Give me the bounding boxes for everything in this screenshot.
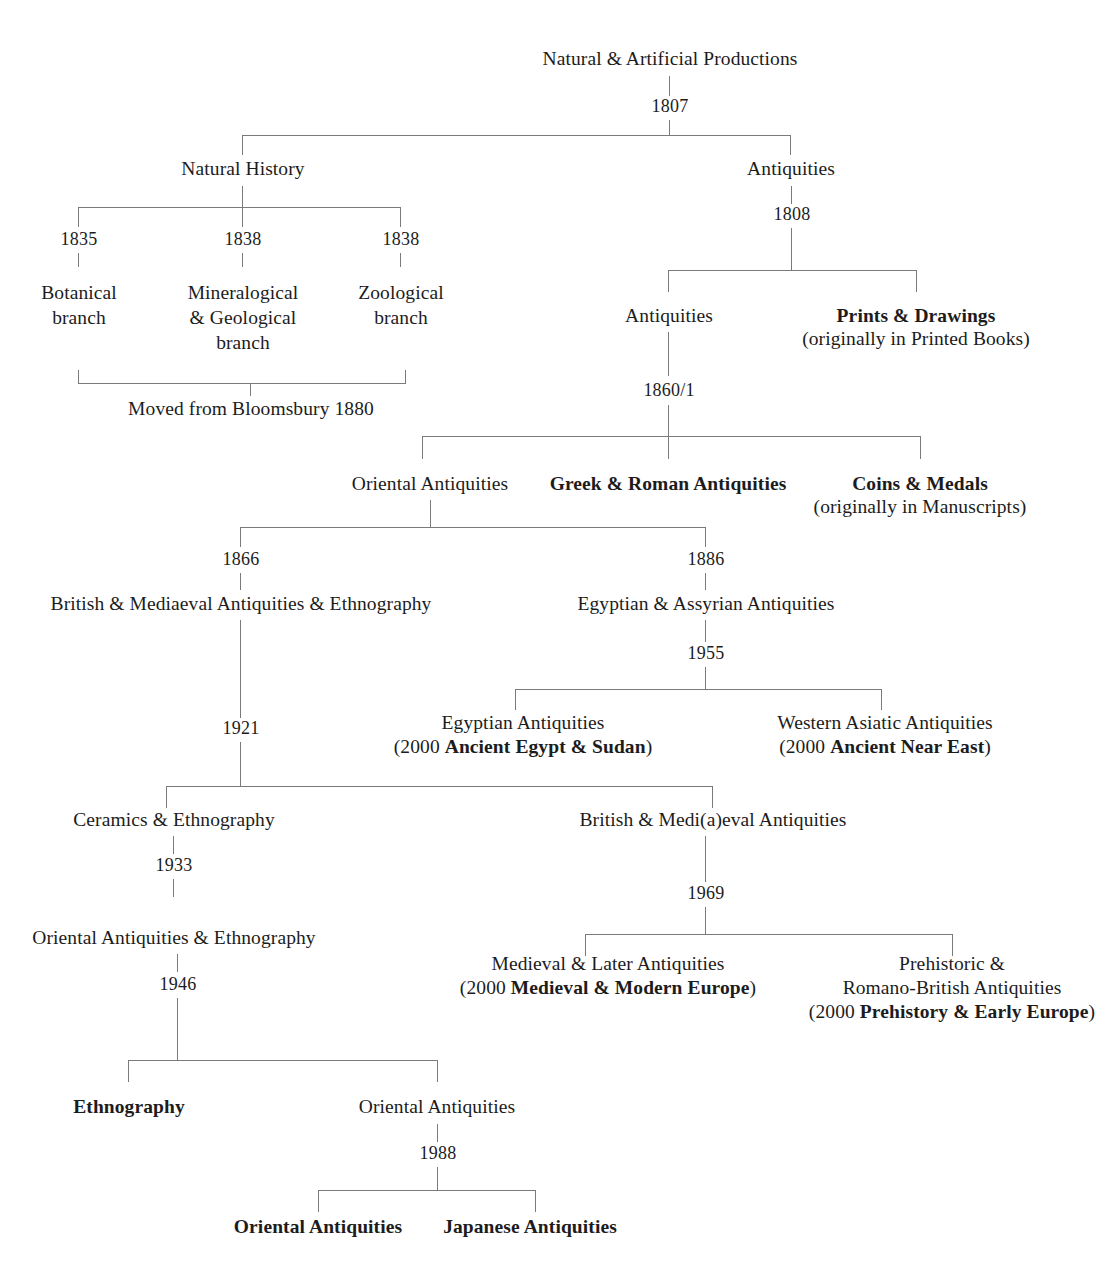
node-mineralogical-geological-branch: Mineralogical & Geological branch (188, 280, 299, 355)
node-mineralogical-line2: & Geological (188, 305, 299, 330)
node-western-asiatic-subtitle: (2000 Ancient Near East) (779, 734, 991, 759)
node-moved-from-bloomsbury: Moved from Bloomsbury 1880 (128, 396, 374, 421)
connector-1808-left-drop (668, 270, 669, 292)
prehistoric-sub-prefix: (2000 (809, 1001, 860, 1022)
connector-1955-stem (705, 667, 706, 689)
node-mineralogical-line1: Mineralogical (188, 280, 299, 305)
connector-1807-right-drop (790, 135, 791, 155)
connector-bloomsbury-left-riser (78, 370, 79, 384)
diagram-canvas: Natural & Artificial Productions 1807 Na… (0, 0, 1101, 1285)
year-1969: 1969 (688, 883, 725, 903)
medieval-sub-prefix: (2000 (460, 977, 511, 998)
egyptian-sub-prefix: (2000 (394, 736, 445, 757)
node-antiquities-1807: Antiquities (747, 156, 835, 181)
node-natural-history: Natural History (181, 156, 304, 181)
connector-1808-bar (668, 270, 916, 271)
connector-ceramics-to-1933 (173, 836, 174, 854)
node-zoological-line1: Zoological (358, 280, 443, 305)
connector-1921-left-drop (166, 786, 167, 808)
connector-naturalhistory-stem (242, 186, 243, 208)
connector-orientalethno-to-1946 (177, 954, 178, 972)
node-greek-roman-antiquities: Greek & Roman Antiquities (550, 471, 787, 496)
connector-1838a-stem (242, 253, 243, 267)
node-japanese-antiquities: Japanese Antiquities (443, 1214, 617, 1239)
connector-mineralogical-drop (242, 207, 243, 227)
connector-naturalhistory-bar (78, 207, 401, 208)
prehistoric-sub-bold: Prehistory & Early Europe (860, 1001, 1089, 1022)
year-1835: 1835 (61, 229, 98, 249)
year-1808: 1808 (774, 204, 811, 224)
connector-1988-stem (437, 1167, 438, 1190)
node-root: Natural & Artificial Productions (542, 46, 797, 71)
connector-1921-bar (166, 786, 713, 787)
medieval-sub-bold: Medieval & Modern Europe (511, 977, 750, 998)
connector-egyptianassyrian-to-1955 (705, 620, 706, 642)
connector-1866-drop (240, 527, 241, 547)
year-1807: 1807 (652, 96, 689, 116)
connector-1860-bar (422, 436, 921, 437)
connector-1807-stem (669, 120, 670, 136)
connector-1921-right-drop (712, 786, 713, 808)
connector-1933-stem (173, 879, 174, 897)
connector-antiquities1808-to-1860 (668, 332, 669, 376)
connector-1860-right-drop (920, 436, 921, 459)
connector-antiquities1807-to-1808 (791, 186, 792, 204)
node-oriental-antiquities-ethnography: Oriental Antiquities & Ethnography (32, 925, 315, 950)
western-sub-bold: Ancient Near East (830, 736, 984, 757)
node-british-medieval-antiquities: British & Medi(a)eval Antiquities (579, 807, 846, 832)
node-prehistoric-subtitle: (2000 Prehistory & Early Europe) (809, 999, 1095, 1024)
connector-1921-stem (240, 742, 241, 786)
connector-1807-bar (242, 135, 791, 136)
year-1933: 1933 (156, 855, 193, 875)
connector-root-to-1807 (669, 76, 670, 96)
connector-1946-left-drop (128, 1060, 129, 1082)
node-prehistoric-romano-british-line2: Romano-British Antiquities (843, 975, 1062, 1000)
connector-1835-stem (78, 253, 79, 267)
node-botanical-line2: branch (41, 305, 117, 330)
node-coins-medals-subtitle: (originally in Manuscripts) (814, 494, 1027, 519)
connector-1886-drop (705, 527, 706, 547)
connector-1955-right-drop (881, 689, 882, 710)
year-1838-zoological: 1838 (383, 229, 420, 249)
year-1921: 1921 (223, 718, 260, 738)
year-1955: 1955 (688, 643, 725, 663)
connector-zoological-drop (400, 207, 401, 227)
connector-1866-stem (240, 573, 241, 590)
node-botanical-line1: Botanical (41, 280, 117, 305)
connector-1866-1886-bar (240, 527, 706, 528)
node-medieval-later-antiquities: Medieval & Later Antiquities (492, 951, 725, 976)
node-antiquities-1808: Antiquities (625, 303, 713, 328)
medieval-sub-suffix: ) (750, 977, 757, 998)
egyptian-sub-suffix: ) (646, 736, 653, 757)
node-oriental-antiquities-1946: Oriental Antiquities (359, 1094, 515, 1119)
connector-britishmedieval-to-1969 (705, 836, 706, 882)
connector-1988-bar (318, 1190, 536, 1191)
year-1838-mineralogical: 1838 (225, 229, 262, 249)
year-1988: 1988 (420, 1143, 457, 1163)
node-prints-drawings: Prints & Drawings (837, 303, 996, 328)
connector-oriental1946-to-1988 (437, 1124, 438, 1142)
connector-1955-left-drop (515, 689, 516, 710)
western-sub-suffix: ) (984, 736, 991, 757)
connector-1969-bar (585, 934, 953, 935)
connector-1946-bar (128, 1060, 438, 1061)
node-oriental-antiquities-1860: Oriental Antiquities (352, 471, 508, 496)
prehistoric-sub-suffix: ) (1089, 1001, 1096, 1022)
node-prehistoric-romano-british-line1: Prehistoric & (899, 951, 1005, 976)
node-botanical-branch: Botanical branch (41, 280, 117, 330)
node-zoological-line2: branch (358, 305, 443, 330)
node-oriental-antiquities-1988: Oriental Antiquities (234, 1214, 402, 1239)
year-1886: 1886 (688, 549, 725, 569)
node-coins-medals: Coins & Medals (852, 471, 988, 496)
node-mineralogical-line3: branch (188, 330, 299, 355)
node-egyptian-antiquities-subtitle: (2000 Ancient Egypt & Sudan) (394, 734, 653, 759)
connector-britishmediaeval-to-1921 (240, 620, 241, 718)
connector-1860-left-drop (422, 436, 423, 459)
connector-1860-mid-drop (668, 436, 669, 459)
connector-1988-left-drop (318, 1190, 319, 1212)
connector-1838b-stem (400, 253, 401, 267)
connector-bloomsbury-right-riser (405, 370, 406, 384)
egyptian-sub-bold: Ancient Egypt & Sudan (445, 736, 646, 757)
node-egyptian-antiquities: Egyptian Antiquities (442, 710, 605, 735)
year-1866: 1866 (223, 549, 260, 569)
